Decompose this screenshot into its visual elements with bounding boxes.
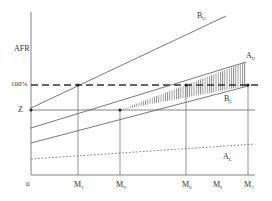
point-z (29, 108, 32, 111)
tick-mi-sub: I (220, 185, 222, 190)
point-m6 (184, 83, 187, 86)
label-a-lower-sub: L (229, 157, 232, 162)
tick-100-percent: 100% (11, 81, 27, 88)
tick-m9-sub: 9 (123, 185, 126, 190)
tick-m1-sub: 1 (81, 185, 84, 190)
label-b-upper-sub: U (202, 16, 206, 21)
tick-mi: MI (213, 181, 222, 190)
label-a-upper-sub: U (252, 56, 256, 61)
label-b-upper: BU (197, 12, 206, 21)
tick-origin: 0 (26, 181, 30, 188)
label-b-lower-sub: L (229, 99, 232, 104)
point-m9 (118, 108, 121, 111)
tick-m9: M9 (116, 181, 126, 190)
tick-m1: M1 (74, 181, 84, 190)
tick-m7: M7 (244, 181, 254, 190)
tick-m6: M6 (182, 181, 192, 190)
tick-m6-sub: 6 (189, 185, 192, 190)
tick-z: Z (18, 106, 23, 114)
line-a-lower (31, 144, 255, 159)
point-m1 (76, 83, 79, 86)
y-axis-label: AFR (14, 45, 30, 53)
label-a-lower: AL (223, 153, 232, 162)
tick-m7-sub: 7 (251, 185, 254, 190)
label-a-upper: AU (246, 52, 255, 61)
point-m7 (246, 83, 249, 86)
label-b-lower: BL (224, 95, 232, 104)
